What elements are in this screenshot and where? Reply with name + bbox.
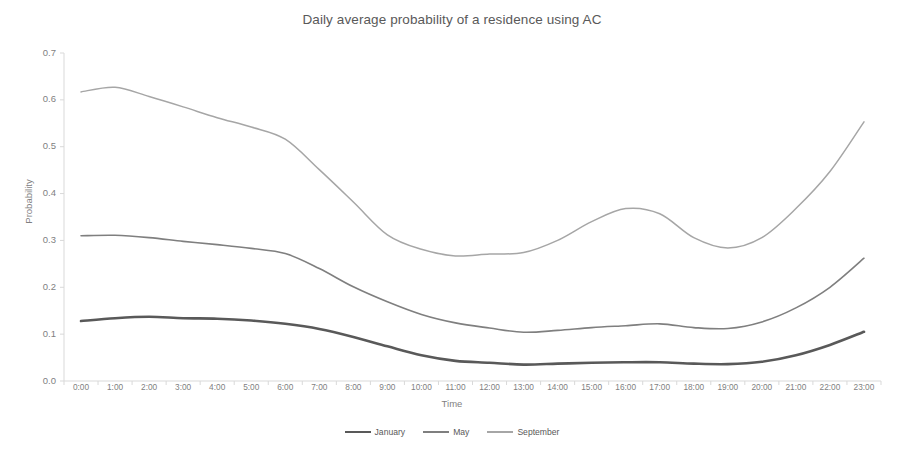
legend-item-may[interactable]: May bbox=[423, 427, 469, 437]
legend-swatch-icon bbox=[487, 431, 513, 433]
legend-item-september[interactable]: September bbox=[487, 427, 559, 437]
series-line-september bbox=[81, 87, 864, 256]
x-tick-marks bbox=[64, 381, 881, 385]
legend-label: January bbox=[375, 427, 406, 437]
legend-swatch-icon bbox=[345, 431, 371, 433]
chart-container: Daily average probability of a residence… bbox=[0, 0, 904, 460]
legend-item-january[interactable]: January bbox=[345, 427, 406, 437]
legend-swatch-icon bbox=[423, 431, 449, 433]
legend-label: September bbox=[517, 427, 559, 437]
axis-lines bbox=[64, 53, 881, 381]
plot-area bbox=[0, 0, 904, 460]
chart-legend: JanuaryMaySeptember bbox=[0, 427, 904, 437]
legend-label: May bbox=[453, 427, 469, 437]
series-line-january bbox=[81, 317, 864, 365]
y-tick-marks bbox=[60, 53, 64, 381]
series-layer bbox=[81, 87, 864, 365]
